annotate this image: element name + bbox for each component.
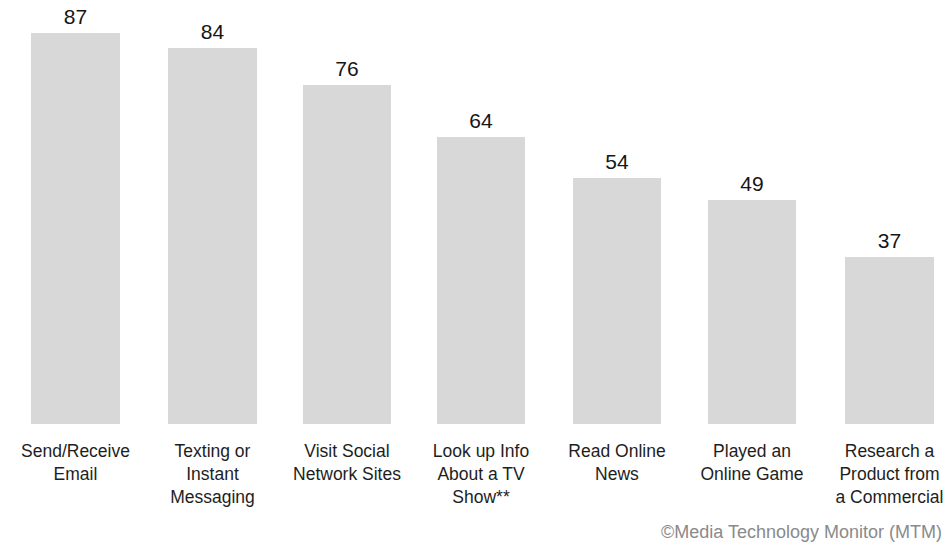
bar-category-label-line: Messaging: [154, 486, 271, 509]
bar-value-label: 54: [573, 151, 661, 172]
bar-value-label: 37: [845, 230, 934, 251]
bar-rect[interactable]: [573, 178, 661, 424]
bar-group: 49Played anOnline Game: [708, 0, 796, 551]
bar-category-label: Look up InfoAbout a TVShow**: [423, 440, 539, 509]
bar-group: 84Texting orInstantMessaging: [168, 0, 257, 551]
bar-category-label: Played anOnline Game: [694, 440, 810, 486]
bar-value-label: 76: [303, 58, 391, 79]
bar-value-label: 64: [437, 110, 525, 131]
bar-category-label-line: Instant: [154, 463, 271, 486]
bar-value-label: 49: [708, 173, 796, 194]
bar-category-label-line: Texting or: [154, 440, 271, 463]
bar-chart: 87Send/ReceiveEmail84Texting orInstantMe…: [0, 0, 950, 551]
plot-area: 87Send/ReceiveEmail84Texting orInstantMe…: [0, 0, 950, 551]
bar-rect[interactable]: [437, 137, 525, 424]
bar-category-label-line: Network Sites: [289, 463, 405, 486]
bar-rect[interactable]: [708, 200, 796, 424]
bar-rect[interactable]: [303, 85, 391, 424]
bar-category-label-line: Research a: [831, 440, 948, 463]
bar-group: 76Visit SocialNetwork Sites: [303, 0, 391, 551]
bar-rect[interactable]: [168, 48, 257, 424]
bar-category-label-line: About a TV: [423, 463, 539, 486]
bar-category-label: Read OnlineNews: [559, 440, 675, 486]
bar-group: 37Research aProduct froma Commercial: [845, 0, 934, 551]
bar-category-label-line: Read Online: [559, 440, 675, 463]
bar-category-label-line: Played an: [694, 440, 810, 463]
bar-group: 54Read OnlineNews: [573, 0, 661, 551]
bar-category-label: Visit SocialNetwork Sites: [289, 440, 405, 486]
bar-category-label-line: Show**: [423, 486, 539, 509]
bar-rect[interactable]: [31, 33, 120, 424]
bar-group: 64Look up InfoAbout a TVShow**: [437, 0, 525, 551]
bar-category-label-line: Product from: [831, 463, 948, 486]
bar-category-label-line: Visit Social: [289, 440, 405, 463]
bar-category-label-line: Look up Info: [423, 440, 539, 463]
bar-category-label-line: Online Game: [694, 463, 810, 486]
bar-category-label-line: Send/Receive: [17, 440, 134, 463]
bar-value-label: 87: [31, 6, 120, 27]
attribution-text: ©Media Technology Monitor (MTM): [661, 522, 942, 543]
bar-group: 87Send/ReceiveEmail: [31, 0, 120, 551]
bar-category-label: Texting orInstantMessaging: [154, 440, 271, 509]
bar-category-label-line: Email: [17, 463, 134, 486]
bar-value-label: 84: [168, 21, 257, 42]
bar-rect[interactable]: [845, 257, 934, 424]
bar-category-label-line: a Commercial: [831, 486, 948, 509]
bar-category-label: Send/ReceiveEmail: [17, 440, 134, 486]
bar-category-label-line: News: [559, 463, 675, 486]
bar-category-label: Research aProduct froma Commercial: [831, 440, 948, 509]
